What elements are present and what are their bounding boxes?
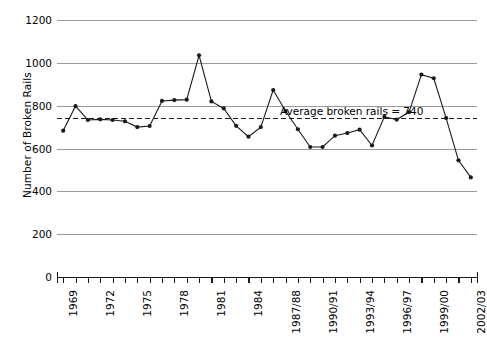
data-point-marker (172, 98, 176, 102)
x-axis-tick (150, 277, 151, 283)
data-point-marker (185, 98, 189, 102)
x-axis-tick-label: 1996/97 (401, 290, 413, 334)
x-axis-tick (76, 277, 77, 283)
average-annotation-label: Average broken rails = 740 (280, 105, 423, 117)
data-point-marker (456, 158, 460, 162)
y-axis-tick-label: 400 (6, 185, 52, 197)
data-series-line (57, 20, 477, 277)
x-axis-tick-label: 1993/94 (364, 290, 376, 334)
data-point-marker (197, 53, 201, 57)
y-axis-tick-label: 1000 (6, 57, 52, 69)
x-axis-end-cap (477, 272, 478, 283)
data-point-marker (320, 145, 324, 149)
x-axis-tick (273, 277, 274, 283)
x-axis-tick (236, 277, 237, 283)
data-point-marker (73, 104, 77, 108)
x-axis-tick-label: 1984 (252, 290, 264, 317)
y-axis-tick-label: 1200 (6, 14, 52, 26)
data-point-marker (271, 88, 275, 92)
x-axis-tick (421, 277, 422, 283)
y-axis-tick-labels: 020040060080010001200 (6, 0, 52, 345)
x-axis-tick (224, 277, 225, 283)
data-point-marker (234, 124, 238, 128)
y-axis-tick-label: 200 (6, 228, 52, 240)
data-point-marker (98, 117, 102, 121)
y-axis-tick-label: 0 (6, 271, 52, 283)
data-point-marker (123, 119, 127, 123)
x-axis-tick (63, 277, 64, 283)
x-axis-tick (360, 277, 361, 283)
x-axis-tick (248, 277, 249, 283)
data-point-marker (259, 125, 263, 129)
data-point-marker (432, 76, 436, 80)
x-axis-line (57, 277, 477, 278)
data-point-marker (296, 127, 300, 131)
x-axis-tick (384, 277, 385, 283)
x-axis-tick (310, 277, 311, 283)
data-point-marker (370, 143, 374, 147)
x-axis-tick (458, 277, 459, 283)
data-point-marker (358, 128, 362, 132)
x-axis-tick-label: 1972 (104, 290, 116, 317)
x-axis-tick-label: 2002/03 (475, 290, 487, 334)
y-axis-tick-label: 800 (6, 100, 52, 112)
data-point-marker (308, 145, 312, 149)
x-axis-tick (211, 277, 212, 283)
x-axis-tick (409, 277, 410, 283)
x-axis-tick (100, 277, 101, 283)
x-axis-tick (471, 277, 472, 283)
x-axis-tick (446, 277, 447, 283)
x-axis-tick (88, 277, 89, 283)
data-point-marker (222, 106, 226, 110)
data-point-marker (160, 99, 164, 103)
x-axis-tick (335, 277, 336, 283)
x-axis-tick-label: 1999/00 (438, 290, 450, 334)
x-axis-tick (261, 277, 262, 283)
x-axis-tick (113, 277, 114, 283)
x-axis-tick (199, 277, 200, 283)
x-axis-tick (323, 277, 324, 283)
data-point-marker (333, 134, 337, 138)
data-point-marker (419, 73, 423, 77)
x-axis-tick-label: 1975 (141, 290, 153, 317)
x-axis-tick-label: 1978 (178, 290, 190, 317)
data-point-marker (135, 125, 139, 129)
x-axis-end-cap (57, 272, 58, 283)
data-point-marker (61, 129, 65, 133)
x-axis-tick (174, 277, 175, 283)
data-point-marker (345, 131, 349, 135)
x-axis-tick (372, 277, 373, 283)
x-axis-tick-label: 1987/88 (290, 290, 302, 334)
data-point-marker (148, 124, 152, 128)
x-axis-tick (298, 277, 299, 283)
x-axis-tick (187, 277, 188, 283)
x-axis-tick-label: 1981 (215, 290, 227, 317)
x-axis-tick-label: 1969 (67, 290, 79, 317)
x-axis-tick (137, 277, 138, 283)
x-axis-tick-label: 1990/91 (327, 290, 339, 334)
data-point-marker (469, 175, 473, 179)
x-axis-tick (286, 277, 287, 283)
x-axis-tick (434, 277, 435, 283)
x-axis-tick (162, 277, 163, 283)
x-axis-tick (397, 277, 398, 283)
data-point-marker (246, 135, 250, 139)
x-axis-tick (347, 277, 348, 283)
y-axis-tick-label: 600 (6, 143, 52, 155)
x-axis-tick (125, 277, 126, 283)
data-point-marker (209, 99, 213, 103)
